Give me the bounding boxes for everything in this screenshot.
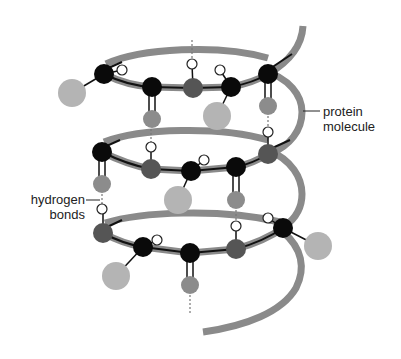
side-group-atom — [164, 186, 192, 214]
hydrogen-atom — [152, 235, 162, 245]
oxygen-atom — [93, 175, 111, 193]
backbone-atom — [226, 157, 246, 177]
helix-loop-3-back — [105, 213, 280, 223]
backbone-atom — [273, 218, 293, 238]
hbonds-label-line1: hydrogen — [24, 192, 85, 207]
alpha-carbon-atom — [141, 159, 161, 179]
protein-label-line2: molecule — [323, 119, 375, 134]
hydrogen-atom — [263, 213, 273, 223]
alpha-carbon-atom — [183, 78, 203, 98]
side-group-atom — [203, 102, 231, 130]
hbonds-label-line2: bonds — [24, 207, 85, 222]
protein-label-line1: protein — [323, 104, 375, 119]
hydrogen-bonds-label: hydrogen bonds — [24, 192, 85, 222]
hydrogen-atom — [117, 65, 127, 75]
protein-molecule-label: protein molecule — [323, 104, 375, 134]
backbone-atom — [142, 77, 162, 97]
backbone-atom — [180, 243, 200, 263]
helix-loop-2-back — [104, 130, 268, 142]
backbone-atom — [258, 64, 278, 84]
hydrogen-atom — [97, 204, 107, 214]
backbone-atom — [92, 142, 112, 162]
alpha-helix-diagram — [0, 0, 401, 359]
side-group-atom — [58, 79, 86, 107]
backbone-atom — [221, 77, 241, 97]
backbone-atom — [181, 161, 201, 181]
oxygen-atom — [259, 97, 277, 115]
alpha-carbon-atom — [258, 144, 278, 164]
side-group-atom — [102, 262, 130, 290]
backbone-atom — [94, 64, 114, 84]
oxygen-atom — [227, 191, 245, 209]
hydrogen-atom — [215, 65, 225, 75]
backbone-atom — [133, 237, 153, 257]
alpha-carbon-atom — [93, 223, 113, 243]
oxygen-atom — [181, 276, 199, 294]
hydrogen-atom — [199, 155, 209, 165]
hydrogen-atom — [263, 127, 273, 137]
alpha-carbon-atom — [226, 239, 246, 259]
side-group-atom — [304, 232, 332, 260]
hydrogen-atom — [231, 221, 241, 231]
hydrogen-atom — [187, 59, 197, 69]
oxygen-atom — [143, 110, 161, 128]
hydrogen-atom — [146, 142, 156, 152]
